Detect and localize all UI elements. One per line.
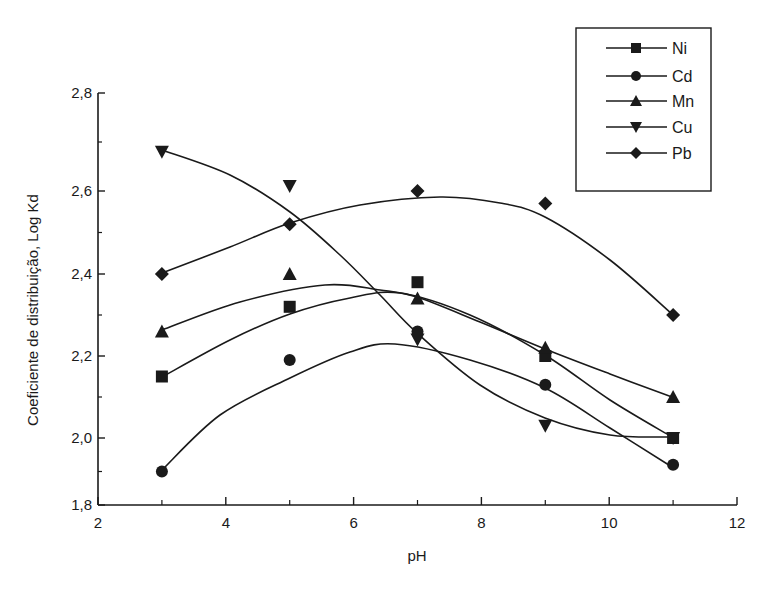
data-markers [155, 146, 680, 478]
cd-circle-marker-icon [284, 354, 296, 366]
cd-circle-marker-icon [667, 459, 679, 471]
pb-diamond-marker-icon [155, 267, 169, 281]
mn-triangle-up-marker-icon [283, 267, 297, 280]
y-tick-label: 2,8 [71, 84, 92, 101]
ni-square-marker-icon [284, 301, 296, 313]
x-tick-label: 10 [601, 514, 618, 531]
y-tick-label: 2,2 [71, 347, 92, 364]
y-tick-label: 2,6 [71, 182, 92, 199]
cd-circle-marker-icon [156, 466, 168, 478]
x-tick-label: 4 [222, 514, 230, 531]
legend: NiCdMnCuPb [576, 28, 711, 191]
cd-circle-marker-icon [539, 379, 551, 391]
mn-triangle-up-marker-icon [666, 390, 680, 403]
cu-triangle-down-marker-icon [411, 334, 425, 347]
ni-square-marker-icon [156, 371, 168, 383]
cu-triangle-down-marker-icon [283, 180, 297, 193]
pb-diamond-marker-icon [283, 217, 297, 231]
legend-label: Ni [672, 40, 687, 57]
y-axis-title: Coeficiente de distribuição, Log Kd [24, 194, 41, 426]
cu-triangle-down-marker-icon [538, 420, 552, 433]
square-marker-icon [631, 43, 641, 53]
y-tick-label: 1,8 [71, 496, 92, 513]
legend-label: Pb [672, 145, 692, 162]
legend-label: Cu [672, 119, 692, 136]
x-axis-title: pH [407, 547, 426, 564]
x-tick-label: 8 [477, 514, 485, 531]
fit-curve-ni [162, 292, 672, 437]
fit-curves [162, 150, 672, 470]
distribution-coefficient-chart: 1,82,02,22,42,62,824681012 pH Coeficient… [0, 0, 762, 589]
legend-label: Cd [672, 68, 692, 85]
mn-triangle-up-marker-icon [155, 324, 169, 337]
pb-diamond-marker-icon [538, 196, 552, 210]
circle-marker-icon [631, 71, 641, 81]
x-tick-label: 6 [349, 514, 357, 531]
ni-square-marker-icon [412, 276, 424, 288]
x-tick-label: 2 [94, 514, 102, 531]
legend-label: Mn [672, 93, 694, 110]
y-tick-label: 2,0 [71, 429, 92, 446]
pb-diamond-marker-icon [411, 184, 425, 198]
fit-curve-cd [162, 344, 672, 470]
x-tick-label: 12 [729, 514, 746, 531]
y-tick-label: 2,4 [71, 265, 92, 282]
